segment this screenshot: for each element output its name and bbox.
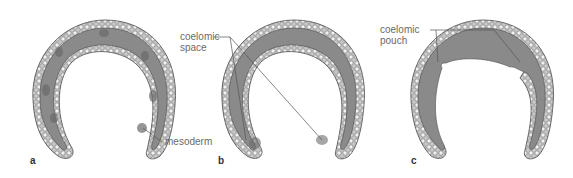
panel-a-horseshoe [33, 20, 176, 159]
panel-letter-a: a [30, 155, 36, 166]
panel-c-horseshoe [411, 20, 554, 159]
label-mesoderm: mesoderm [165, 136, 212, 147]
label-coelomic-pouch: coelomic pouch [380, 24, 419, 46]
panel-b-horseshoe [222, 20, 365, 159]
embryo-diagram [0, 0, 573, 178]
label-coelomic-space: coelomic space [180, 31, 219, 53]
panel-letter-c: c [411, 155, 417, 166]
panel-letter-b: b [218, 155, 224, 166]
